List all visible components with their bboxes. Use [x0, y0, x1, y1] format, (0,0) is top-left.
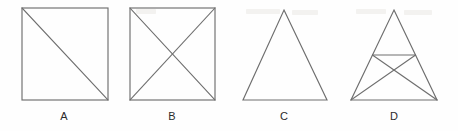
figure-d — [351, 10, 437, 100]
figure-d-cevian-left — [351, 55, 416, 100]
figure-a-diagonal — [22, 8, 108, 100]
figure-a — [22, 8, 108, 100]
figure-label-d: D — [382, 110, 406, 123]
figure-b — [130, 8, 215, 100]
figure-label-b: B — [160, 110, 184, 123]
figure-label-a: A — [52, 110, 76, 123]
figure-c — [243, 10, 327, 100]
figure-c-triangle — [243, 10, 327, 100]
figure-diagram-canvas: A B C D — [0, 0, 458, 131]
figure-d-cevian-right — [373, 55, 438, 100]
figure-label-c: C — [272, 110, 296, 123]
